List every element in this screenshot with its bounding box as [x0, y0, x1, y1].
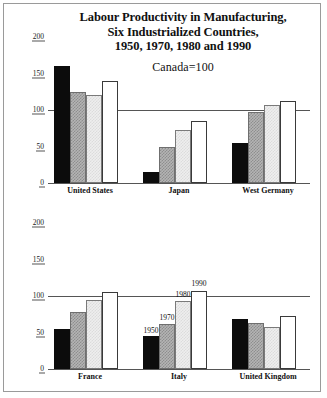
bar-west-germany-1970: [248, 112, 264, 183]
legend-label-1970: 1970: [160, 314, 175, 322]
y-tick-0-bottom: 0: [5, 365, 48, 374]
bar-japan-1980: [175, 130, 191, 183]
bar-japan-1950: [143, 172, 159, 183]
bar-united-states-1970: [70, 92, 86, 183]
y-tick-50-top: 50: [5, 142, 48, 151]
plot-area-top: 200 150 100 50 0 United States: [48, 37, 310, 183]
bar-united-kingdom-1970: [248, 323, 264, 369]
bar-japan-1970: [159, 147, 175, 184]
y-tick-150-top: 150: [5, 69, 48, 78]
group-label-japan: Japan: [143, 186, 215, 195]
bar-united-states-1980: [86, 95, 102, 183]
bar-france-1980: [86, 300, 102, 369]
bar-italy-1950: [143, 336, 159, 369]
legend-label-1950: 1950: [144, 327, 159, 335]
group-label-italy: Italy: [143, 372, 215, 381]
bar-united-states-1990: [102, 81, 118, 183]
baseline-bottom: [48, 369, 310, 370]
y-tick-100-bottom: 100: [5, 292, 48, 301]
y-tick-50-bottom: 50: [5, 328, 48, 337]
y-tick-150-bottom: 150: [5, 255, 48, 264]
y-tick-100-top: 100: [5, 106, 48, 115]
bar-west-germany-1950: [232, 143, 248, 183]
bar-west-germany-1990: [280, 101, 296, 183]
bar-united-kingdom-1980: [264, 327, 280, 369]
chart-frame: Labour Productivity in Manufacturing, Si…: [3, 3, 321, 392]
bar-group-west-germany: West Germany: [232, 37, 304, 183]
plot-area-bottom: 200 150 100 50 0 France: [48, 223, 310, 369]
bar-group-united-states: United States: [54, 37, 126, 183]
baseline-top: [48, 183, 310, 184]
bar-group-france: France: [54, 223, 126, 369]
bar-united-kingdom-1950: [232, 319, 248, 369]
bar-united-kingdom-1990: [280, 316, 296, 369]
bar-france-1950: [54, 329, 70, 369]
bar-italy-1980: [175, 301, 191, 369]
y-tick-0-top: 0: [5, 179, 48, 188]
title-line-1: Labour Productivity in Manufacturing,: [52, 10, 314, 25]
bar-italy-1990: [191, 291, 207, 369]
bar-group-italy: 1950 1970 1980 1990 Italy: [143, 223, 215, 369]
bar-japan-1990: [191, 121, 207, 183]
group-label-united-kingdom: United Kingdom: [232, 372, 304, 381]
group-label-france: France: [54, 372, 126, 381]
legend-label-1980: 1980: [176, 291, 191, 299]
group-label-west-germany: West Germany: [232, 186, 304, 195]
legend-label-1990: 1990: [192, 280, 207, 288]
bar-france-1990: [102, 292, 118, 369]
bar-group-united-kingdom: United Kingdom: [232, 223, 304, 369]
bar-france-1970: [70, 312, 86, 369]
bar-united-states-1950: [54, 66, 70, 183]
bar-west-germany-1980: [264, 105, 280, 183]
y-tick-200-bottom: 200: [5, 219, 48, 228]
y-tick-200-top: 200: [5, 33, 48, 42]
group-label-united-states: United States: [54, 186, 126, 195]
bar-italy-1970: [159, 324, 175, 369]
bar-group-japan: Japan: [143, 37, 215, 183]
